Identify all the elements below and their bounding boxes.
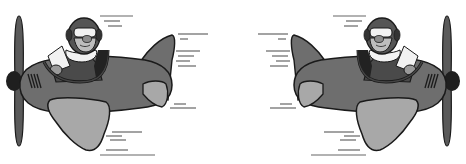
- plane-right: [258, 16, 460, 155]
- scene: Two cartoon airplanes with pilots, facin…: [0, 0, 466, 164]
- plane-left: [6, 16, 208, 155]
- airplanes-illustration: [0, 0, 466, 164]
